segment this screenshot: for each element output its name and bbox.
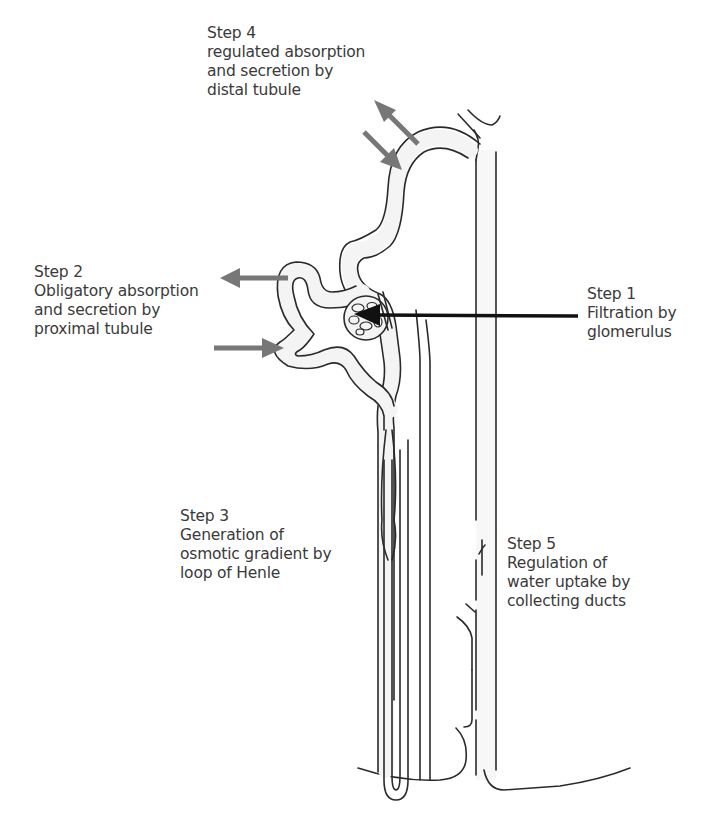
step1-label: Step 1 Filtration by glomerulus [587,285,676,342]
step3-line1: Generation of [180,526,331,545]
step2-line2: and secretion by [34,301,199,320]
step3-heading: Step 3 [180,507,331,526]
step5-line2: water uptake by [507,573,630,592]
step4-heading: Step 4 [207,24,365,43]
step5-line1: Regulation of [507,554,630,573]
step2-label: Step 2 Obligatory absorption and secreti… [34,263,199,339]
step4-line2: and secretion by [207,62,365,81]
nephron-diagram [0,0,716,821]
step3-line2: osmotic gradient by [180,545,331,564]
step5-label: Step 5 Regulation of water uptake by col… [507,535,630,611]
step3-line3: loop of Henle [180,564,331,583]
step3-label: Step 3 Generation of osmotic gradient by… [180,507,331,583]
step4-line1: regulated absorption [207,43,365,62]
step4-label: Step 4 regulated absorption and secretio… [207,24,365,100]
proximal-absorption-arrow [214,338,284,358]
step4-line3: distal tubule [207,81,365,100]
step2-heading: Step 2 [34,263,199,282]
distal-absorption-arrow [364,132,402,170]
nephron-tubule [275,127,480,800]
step1-heading: Step 1 [587,285,676,304]
step5-line3: collecting ducts [507,592,630,611]
step2-line3: proximal tubule [34,320,199,339]
distal-secretion-arrow [374,100,418,144]
step5-heading: Step 5 [507,535,630,554]
step1-line2: glomerulus [587,323,676,342]
step2-line1: Obligatory absorption [34,282,199,301]
step1-line1: Filtration by [587,304,676,323]
